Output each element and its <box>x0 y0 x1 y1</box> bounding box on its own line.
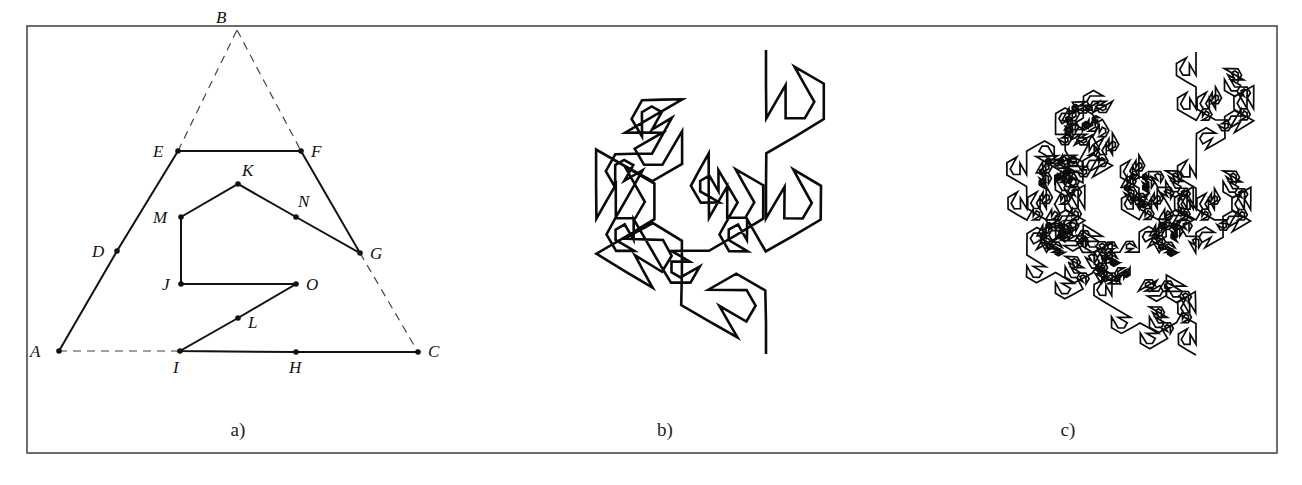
vertex-label-E: E <box>152 142 164 161</box>
vertex-dot-M <box>178 214 184 220</box>
vertex-dot-D <box>114 248 120 254</box>
panel-label-b: b) <box>657 419 673 441</box>
fractal-curve-level-3 <box>1007 52 1254 355</box>
generator-polyline <box>59 151 418 352</box>
vertex-dot-F <box>298 148 304 154</box>
vertex-dot-I <box>177 348 183 354</box>
vertex-label-O: O <box>306 275 318 294</box>
vertex-dot-E <box>175 148 181 154</box>
panel-label-a: a) <box>231 419 246 441</box>
dashed-edge-EB <box>178 30 237 151</box>
vertex-dot-A <box>56 348 62 354</box>
panel-label-c: c) <box>1061 419 1076 441</box>
vertex-label-B: B <box>216 8 227 27</box>
vertex-dot-L <box>235 315 241 321</box>
vertex-dot-C <box>415 349 421 355</box>
vertex-labels: ABCDEFGNKMJOLIH <box>29 8 440 377</box>
vertex-dot-N <box>293 214 299 220</box>
vertex-label-I: I <box>172 358 180 377</box>
vertex-label-L: L <box>247 313 257 332</box>
dashed-edge-BF <box>237 30 301 151</box>
vertex-label-J: J <box>162 275 171 294</box>
vertex-label-A: A <box>29 342 41 361</box>
vertex-label-C: C <box>428 342 440 361</box>
panel-b-iteration-2: b) <box>596 50 824 441</box>
vertex-dot-K <box>235 181 241 187</box>
fractal-curve-level-2 <box>596 50 824 354</box>
vertex-label-N: N <box>297 192 311 211</box>
vertex-label-K: K <box>241 161 255 180</box>
vertex-dot-O <box>293 281 299 287</box>
figure: ABCDEFGNKMJOLIH a) b) c) <box>0 0 1302 485</box>
dashed-triangle-edges <box>59 30 418 352</box>
panel-a-generator: ABCDEFGNKMJOLIH a) <box>29 8 440 441</box>
panel-c-iteration-3: c) <box>1007 52 1254 441</box>
vertex-dot-J <box>178 281 184 287</box>
vertex-dot-H <box>293 349 299 355</box>
vertex-label-G: G <box>370 244 382 263</box>
dashed-edge-GC <box>360 253 418 352</box>
vertex-label-D: D <box>91 242 105 261</box>
vertex-label-F: F <box>310 142 322 161</box>
vertex-dot-G <box>357 250 363 256</box>
vertex-label-M: M <box>152 208 168 227</box>
vertex-label-H: H <box>288 358 303 377</box>
vertex-dots <box>56 148 421 355</box>
